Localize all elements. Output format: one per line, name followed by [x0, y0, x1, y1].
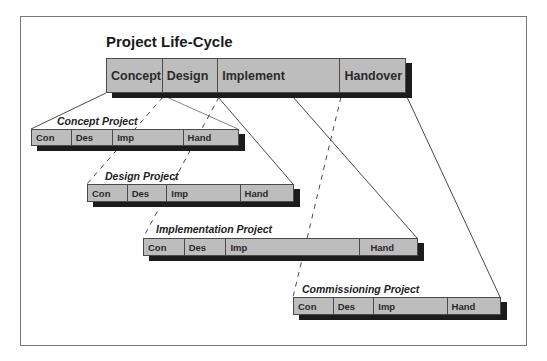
concept-project-imp: Imp: [113, 130, 183, 145]
phase-concept: Concept: [107, 59, 163, 92]
implementation-project-hand: Hand: [360, 239, 417, 255]
commissioning-project-hand: Hand: [448, 298, 500, 314]
concept-project-label: Concept Project: [57, 115, 138, 127]
concept-project-con: Con: [32, 130, 72, 145]
implementation-project-des: Des: [185, 239, 227, 255]
commissioning-project-bar: Con Des Imp Hand: [293, 297, 501, 315]
commissioning-project-label: Commissioning Project: [302, 283, 419, 295]
implementation-project-con: Con: [144, 239, 185, 255]
concept-right-line: [162, 95, 238, 129]
design-project-bar: Con Des Imp Hand: [87, 184, 294, 202]
implementation-project-label: Implementation Project: [156, 223, 272, 235]
design-project-con: Con: [88, 185, 128, 201]
implement-left-line: [143, 97, 219, 238]
design-project-hand: Hand: [241, 185, 293, 201]
main-lifecycle-bar: Concept Design Implement Handover: [106, 58, 406, 93]
phase-handover: Handover: [340, 59, 405, 92]
commissioning-project-con: Con: [294, 298, 334, 314]
implement-right-line: [293, 97, 417, 238]
handover-right-line: [407, 97, 500, 297]
implementation-project-imp: Imp: [226, 239, 360, 255]
concept-project-hand: Hand: [184, 130, 238, 145]
concept-project-bar: Con Des Imp Hand: [31, 129, 239, 146]
design-project-des: Des: [128, 185, 168, 201]
handover-left-line: [293, 97, 341, 297]
diagram-title: Project Life-Cycle: [106, 33, 233, 50]
concept-project-des: Des: [72, 130, 114, 145]
phase-implement: Implement: [218, 59, 340, 92]
design-project-label: Design Project: [105, 170, 179, 182]
implementation-project-bar: Con Des Imp Hand: [143, 238, 418, 256]
commissioning-project-imp: Imp: [374, 298, 447, 314]
phase-design: Design: [163, 59, 219, 92]
commissioning-project-des: Des: [334, 298, 375, 314]
design-project-imp: Imp: [167, 185, 240, 201]
